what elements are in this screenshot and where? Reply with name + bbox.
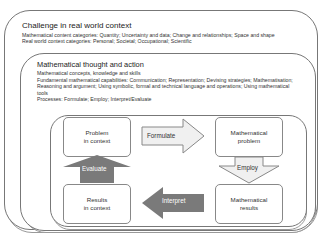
- node-line: Problem: [64, 129, 130, 137]
- node-line: in context: [64, 204, 130, 212]
- employ-label: Employ: [237, 164, 258, 171]
- evaluate-label: Evaluate: [82, 165, 107, 172]
- node-problem-in-context: Problem in context: [63, 117, 131, 157]
- formulate-label: Formulate: [147, 132, 175, 139]
- node-line: Mathematical: [216, 129, 282, 137]
- node-mathematical-problem: Mathematical problem: [215, 117, 283, 157]
- node-line: Mathematical: [216, 196, 282, 204]
- node-line: in context: [64, 137, 130, 145]
- node-mathematical-results: Mathematical results: [215, 184, 283, 224]
- node-line: Results: [64, 196, 130, 204]
- middle-description: Mathematical concepts, knowledge and ski…: [37, 70, 299, 103]
- outer-description: Mathematical content categories: Quantit…: [22, 32, 314, 44]
- node-line: results: [216, 204, 282, 212]
- node-line: problem: [216, 137, 282, 145]
- middle-title: Mathematical thought and action: [37, 60, 144, 69]
- interpret-label: Interpret: [162, 197, 185, 204]
- outer-title: Challenge in real world context: [22, 21, 131, 30]
- node-results-in-context: Results in context: [63, 184, 131, 224]
